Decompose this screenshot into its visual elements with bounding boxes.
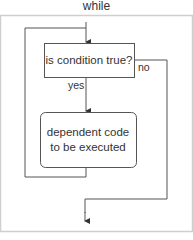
action-label-line2: to be executed [50,140,125,155]
no-label: no [138,61,150,73]
action-label-line1: dependent code [47,125,130,140]
condition-label: is condition true? [44,43,134,77]
diagram-title: while [0,0,193,13]
yes-label: yes [68,79,84,91]
action-label: dependent code to be executed [40,112,136,167]
